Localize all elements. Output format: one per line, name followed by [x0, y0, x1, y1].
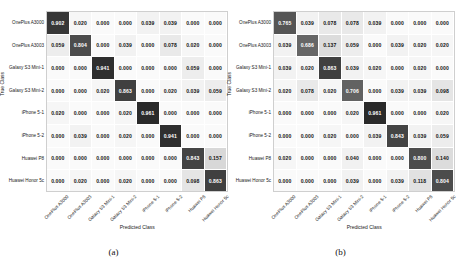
- matrix-cell: 0.020: [431, 34, 454, 57]
- x-tick-label: Huawei Honor 5c: [410, 194, 456, 240]
- matrix-cell: 0.020: [364, 57, 387, 80]
- y-tick-label: Galaxy S3 Mini-2: [236, 88, 271, 93]
- matrix-cell: 0.000: [69, 102, 92, 125]
- matrix-cell: 0.000: [137, 124, 160, 147]
- matrix-row: 0.0390.6860.1370.0590.0000.0390.0200.020: [274, 34, 454, 57]
- matrix-cell: 0.000: [386, 12, 409, 35]
- matrix-cell: 0.000: [159, 102, 182, 125]
- y-tick-label: iPhone 5-2: [249, 133, 271, 138]
- matrix-cell: 0.000: [69, 57, 92, 80]
- y-tick-label: Galaxy S3 Mini-2: [9, 88, 44, 93]
- panel-inner: True ClassOnePlus A3000OnePlus A3003Gala…: [227, 0, 454, 267]
- matrix-cell: 0.000: [296, 124, 319, 147]
- y-tick-label: Huawei Honor 5c: [236, 178, 271, 183]
- matrix-cell: 0.000: [319, 102, 342, 125]
- panel-inner: True ClassOnePlus A3000OnePlus A3003Gala…: [0, 0, 227, 267]
- y-tick-label: Huawei P8: [22, 156, 44, 161]
- x-axis-title: Predicted Class: [304, 224, 424, 230]
- matrix-cell: 0.039: [159, 12, 182, 35]
- x-axis-title: Predicted Class: [77, 224, 197, 230]
- matrix-cell: 0.020: [69, 12, 92, 35]
- matrix-cell: 0.000: [114, 57, 137, 80]
- matrix-cell: 0.039: [364, 124, 387, 147]
- y-tick-label: Huawei Honor 5c: [9, 178, 44, 183]
- x-tick-label: OnePlus A3000: [24, 194, 70, 240]
- matrix-cell: 0.000: [47, 57, 70, 80]
- matrix-cell: 0.000: [409, 12, 432, 35]
- y-tick-label: OnePlus A3003: [12, 43, 44, 48]
- matrix-cell: 0.941: [92, 57, 115, 80]
- x-tick-label: iPhone 5-1: [342, 194, 388, 240]
- matrix-cell: 0.961: [137, 102, 160, 125]
- x-tick-label: iPhone 5-2: [138, 194, 184, 240]
- matrix-cell: 0.863: [204, 170, 227, 193]
- matrix-cell: 0.706: [341, 79, 364, 102]
- matrix-cell: 0.039: [386, 79, 409, 102]
- matrix-cell: 0.078: [296, 79, 319, 102]
- matrix-cell: 0.000: [274, 170, 297, 193]
- matrix-cell: 0.000: [159, 57, 182, 80]
- matrix-cell: 0.000: [364, 147, 387, 170]
- matrix-cell: 0.039: [409, 124, 432, 147]
- x-tick-label: OnePlus A3000: [251, 194, 297, 240]
- matrix-cell: 0.863: [319, 57, 342, 80]
- matrix-cell: 0.765: [274, 12, 297, 35]
- x-tick-label: Galaxy S3 Mini-1: [69, 194, 115, 240]
- matrix-cell: 0.118: [409, 170, 432, 193]
- matrix-cell: 0.020: [159, 79, 182, 102]
- matrix-cell: 0.000: [137, 147, 160, 170]
- matrix-cell: 0.000: [92, 12, 115, 35]
- matrix-row: 0.0000.0200.0000.0200.0000.0000.0980.863: [47, 170, 227, 193]
- matrix-row: 0.0390.0200.8630.0390.0200.0000.0200.000: [274, 57, 454, 80]
- matrix-cell: 0.000: [182, 12, 205, 35]
- matrix-cell: 0.000: [204, 57, 227, 80]
- x-tick-label: Galaxy S3 Mini-2: [319, 194, 365, 240]
- matrix-cell: 0.059: [341, 34, 364, 57]
- matrix-cell: 0.000: [47, 147, 70, 170]
- matrix-cell: 0.039: [341, 57, 364, 80]
- y-tick-label: OnePlus A3000: [12, 20, 44, 25]
- x-tick-label: iPhone 5-2: [365, 194, 411, 240]
- matrix-cell: 0.039: [409, 79, 432, 102]
- panel-caption: (a): [0, 247, 227, 257]
- matrix-cell: 0.000: [114, 12, 137, 35]
- matrix-cell: 0.000: [47, 79, 70, 102]
- matrix-cell: 0.039: [386, 34, 409, 57]
- matrix-row: 0.0000.0390.0000.0200.0000.9410.0000.000: [47, 124, 227, 147]
- confusion-matrix: 0.7650.0390.0780.0780.0390.0000.0000.000…: [273, 11, 454, 193]
- matrix-cell: 0.020: [182, 34, 205, 57]
- matrix-cell: 0.098: [431, 79, 454, 102]
- matrix-cell: 0.843: [182, 147, 205, 170]
- matrix-cell: 0.800: [409, 147, 432, 170]
- matrix-cell: 0.059: [204, 79, 227, 102]
- matrix-cell: 0.020: [319, 124, 342, 147]
- matrix-row: 0.0200.0000.0000.0400.0000.0000.8000.140: [274, 147, 454, 170]
- matrix-cell: 0.000: [182, 102, 205, 125]
- y-axis-title: True Class: [0, 72, 5, 96]
- matrix-cell: 0.078: [319, 12, 342, 35]
- panel-caption: (b): [227, 247, 454, 257]
- matrix-cell: 0.000: [204, 12, 227, 35]
- matrix-table: 0.9020.0200.0000.0000.0390.0390.0000.000…: [46, 11, 227, 193]
- matrix-cell: 0.000: [137, 34, 160, 57]
- matrix-cell: 0.020: [274, 79, 297, 102]
- matrix-cell: 0.000: [296, 170, 319, 193]
- x-tick-label: Huawei P8: [160, 194, 206, 240]
- matrix-cell: 0.039: [386, 170, 409, 193]
- matrix-cell: 0.059: [47, 34, 70, 57]
- matrix-cell: 0.039: [364, 12, 387, 35]
- y-tick-label: OnePlus A3000: [239, 20, 271, 25]
- matrix-row: 0.0590.8040.0000.0390.0000.0780.0200.000: [47, 34, 227, 57]
- matrix-cell: 0.137: [319, 34, 342, 57]
- y-tick-label: Galaxy S3 Mini-1: [236, 65, 271, 70]
- matrix-cell: 0.078: [159, 34, 182, 57]
- matrix-cell: 0.039: [114, 34, 137, 57]
- matrix-cell: 0.000: [364, 170, 387, 193]
- panel-a: True ClassOnePlus A3000OnePlus A3003Gala…: [0, 0, 227, 267]
- y-tick-label: iPhone 5-1: [22, 110, 44, 115]
- matrix-cell: 0.902: [47, 12, 70, 35]
- matrix-cell: 0.000: [431, 57, 454, 80]
- matrix-cell: 0.000: [274, 124, 297, 147]
- matrix-cell: 0.039: [137, 12, 160, 35]
